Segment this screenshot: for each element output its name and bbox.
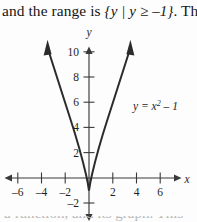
x-axis-left-arrow-icon <box>5 174 13 181</box>
y-tick-label: 6 <box>73 96 79 108</box>
x-tick-label: –4 <box>35 186 48 198</box>
y-tick-label: 4 <box>73 121 79 133</box>
curve-left-arrow-icon <box>44 40 52 56</box>
y-axis-label: y <box>85 26 92 39</box>
bottom-cutoff-strip: a function, and its graph. This <box>0 216 197 222</box>
y-tick-label: 8 <box>73 71 79 83</box>
curve-right-arrow-icon <box>126 40 134 56</box>
coordinate-plane-svg: y x –6 –4 –2 2 4 6 10 8 6 4 2 –2 y = x2 <box>0 24 197 222</box>
x-tick-label: 4 <box>134 186 140 198</box>
x-tick-label: 6 <box>157 186 163 198</box>
x-tick-label: –6 <box>11 186 24 198</box>
curve-equation-tail: – 1 <box>161 100 178 112</box>
curve-equation-label: y = x2 – 1 <box>132 99 178 113</box>
set-notation-range: {y | y ≥ –1} <box>105 3 174 19</box>
x-tick-label: 2 <box>110 186 116 198</box>
x-axis-tick-labels: –6 –4 –2 2 4 6 <box>11 186 163 198</box>
curve-equation-base: y = x <box>132 100 158 113</box>
body-text-before: and the range is <box>2 2 105 19</box>
textbook-figure-page: and the range is {y | y ≥ –1}. This <box>0 0 197 222</box>
parabola-graph-figure: y x –6 –4 –2 2 4 6 10 8 6 4 2 –2 y = x2 <box>0 24 197 222</box>
body-text-after: . This <box>173 2 197 19</box>
y-tick-label: –2 <box>67 197 80 209</box>
bottom-cutoff-text: a function, and its graph. This <box>4 216 183 222</box>
y-tick-label: 10 <box>68 46 80 58</box>
y-axis-tick-labels: 10 8 6 4 2 –2 <box>67 46 80 209</box>
y-axis-up-arrow-icon <box>85 47 92 55</box>
x-axis-label: x <box>183 173 190 185</box>
body-text-line: and the range is {y | y ≥ –1}. This <box>2 1 197 21</box>
y-tick-label: 2 <box>73 147 79 159</box>
x-axis-right-arrow-icon <box>174 174 182 181</box>
